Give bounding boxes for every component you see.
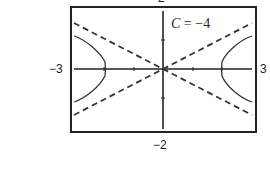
x-max-label: 3 <box>260 62 267 76</box>
y-min-label: −2 <box>153 138 167 152</box>
y-max-label: 2 <box>158 0 165 5</box>
annotation-label: C = −4 <box>171 16 210 32</box>
x-min-label: −3 <box>49 62 63 76</box>
chart-plot <box>0 0 270 169</box>
